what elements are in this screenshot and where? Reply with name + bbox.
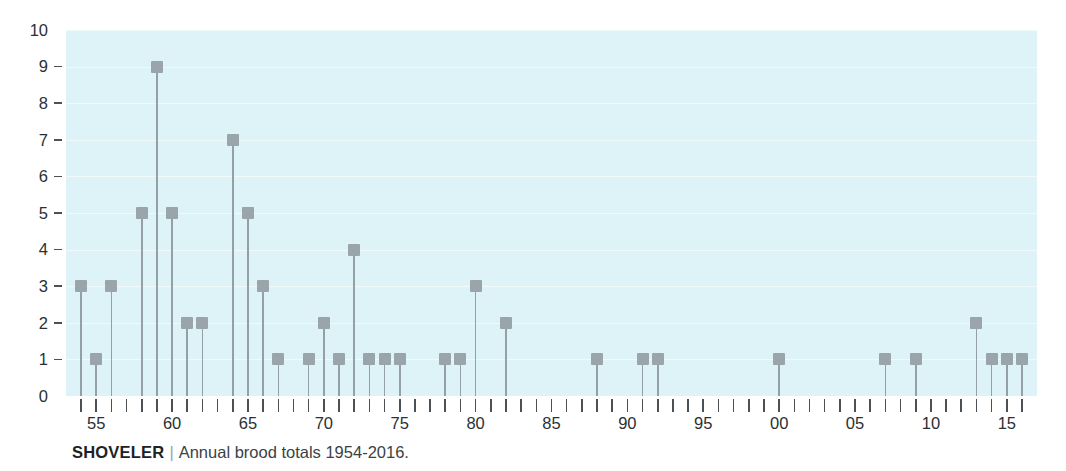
x-axis-tick-label: 95 xyxy=(694,415,712,432)
x-axis-tick-label: 60 xyxy=(163,415,181,432)
x-axis-tick xyxy=(490,399,492,412)
x-axis-tick xyxy=(991,399,993,412)
data-point-marker xyxy=(970,317,982,329)
x-axis-tick xyxy=(930,399,932,412)
x-axis-tick xyxy=(581,399,583,412)
data-point-marker xyxy=(986,353,998,365)
x-axis-tick xyxy=(627,399,629,412)
figure-caption: SHOVELER|Annual brood totals 1954-2016. xyxy=(72,443,409,463)
x-axis-tick xyxy=(1021,399,1023,412)
x-axis-tick xyxy=(733,399,735,412)
x-axis-tick xyxy=(369,399,371,412)
x-axis-tick xyxy=(338,399,340,412)
x-axis-tick xyxy=(642,399,644,412)
x-axis-tick xyxy=(687,399,689,412)
x-axis-tick xyxy=(399,399,401,412)
x-axis-tick xyxy=(429,399,431,412)
x-axis-tick xyxy=(217,399,219,412)
data-stem xyxy=(171,213,173,396)
y-axis-tick-dash xyxy=(54,322,62,324)
data-stem xyxy=(976,323,978,396)
data-point-marker xyxy=(257,280,269,292)
data-stem xyxy=(323,323,325,396)
y-axis-tick-label: 3 xyxy=(39,278,48,295)
x-axis-tick-label: 75 xyxy=(391,415,409,432)
y-axis-tick-label: 4 xyxy=(39,241,48,258)
x-axis-tick xyxy=(763,399,765,412)
x-axis-tick xyxy=(672,399,674,412)
x-axis-tick-label: 05 xyxy=(846,415,864,432)
data-stem xyxy=(475,286,477,396)
data-point-marker xyxy=(879,353,891,365)
x-axis-tick-label: 80 xyxy=(466,415,484,432)
data-point-marker xyxy=(500,317,512,329)
x-axis-tick xyxy=(551,399,553,412)
x-axis-tick xyxy=(794,399,796,412)
x-axis-tick xyxy=(308,399,310,412)
data-point-marker xyxy=(394,353,406,365)
data-point-marker xyxy=(196,317,208,329)
x-axis-tick xyxy=(1006,399,1008,412)
y-axis-tick-label: 1 xyxy=(39,351,48,368)
y-axis-tick-dash xyxy=(54,66,62,68)
x-axis-tick xyxy=(505,399,507,412)
x-axis-tick xyxy=(95,399,97,412)
data-point-marker xyxy=(454,353,466,365)
caption-species: SHOVELER xyxy=(72,443,164,461)
data-point-marker xyxy=(303,353,315,365)
x-axis-tick xyxy=(824,399,826,412)
data-point-marker xyxy=(637,353,649,365)
x-axis-tick-label: 15 xyxy=(998,415,1016,432)
data-point-marker xyxy=(773,353,785,365)
data-point-marker xyxy=(379,353,391,365)
x-axis-tick xyxy=(854,399,856,412)
brood-totals-figure: 012345678910 55606570758085909500051015 … xyxy=(0,0,1066,471)
data-point-marker xyxy=(181,317,193,329)
x-axis-tick xyxy=(171,399,173,412)
x-axis-tick xyxy=(596,399,598,412)
x-axis-tick xyxy=(839,399,841,412)
x-axis-tick xyxy=(293,399,295,412)
x-axis-tick xyxy=(247,399,249,412)
data-point-marker xyxy=(272,353,284,365)
gridline xyxy=(66,67,1037,68)
data-stem xyxy=(353,250,355,396)
data-point-marker xyxy=(348,244,360,256)
gridline xyxy=(66,176,1037,177)
x-axis-tick xyxy=(702,399,704,412)
x-axis-tick xyxy=(460,399,462,412)
x-axis-tick xyxy=(384,399,386,412)
y-axis-tick-dash xyxy=(54,212,62,214)
data-point-marker xyxy=(652,353,664,365)
data-point-marker xyxy=(910,353,922,365)
x-axis-tick-label: 65 xyxy=(239,415,257,432)
gridline xyxy=(66,250,1037,251)
data-stem xyxy=(156,67,158,396)
x-axis-tick-label: 85 xyxy=(542,415,560,432)
gridline xyxy=(66,30,1037,31)
y-axis-tick-label: 6 xyxy=(39,168,48,185)
gridline xyxy=(66,140,1037,141)
x-axis-tick xyxy=(232,399,234,412)
x-axis-tick xyxy=(976,399,978,412)
x-axis-tick xyxy=(611,399,613,412)
x-axis-tick xyxy=(778,399,780,412)
x-axis-tick xyxy=(900,399,902,412)
x-axis-tick xyxy=(414,399,416,412)
data-point-marker xyxy=(318,317,330,329)
data-point-marker xyxy=(151,61,163,73)
y-axis-tick-dash xyxy=(54,359,62,361)
data-point-marker xyxy=(363,353,375,365)
data-point-marker xyxy=(166,207,178,219)
data-point-marker xyxy=(227,134,239,146)
x-axis-tick xyxy=(915,399,917,412)
data-stem xyxy=(111,286,113,396)
data-point-marker xyxy=(75,280,87,292)
data-stem xyxy=(247,213,249,396)
x-axis-tick xyxy=(657,399,659,412)
x-axis-tick-label: 90 xyxy=(618,415,636,432)
x-axis-tick-label: 10 xyxy=(922,415,940,432)
x-axis-tick xyxy=(444,399,446,412)
x-axis-tick xyxy=(156,399,158,412)
x-axis-tick-label: 55 xyxy=(87,415,105,432)
